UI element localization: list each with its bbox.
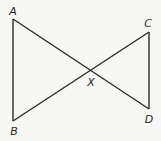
- point-label-b: B: [10, 126, 18, 137]
- segment-bc: [13, 32, 149, 121]
- bowtie-figure: [0, 0, 161, 141]
- point-label-d: D: [145, 114, 153, 125]
- segment-ad: [13, 19, 149, 109]
- point-label-x: X: [87, 77, 95, 88]
- diagram-canvas: A B C D X: [0, 0, 161, 141]
- point-label-c: C: [144, 18, 152, 29]
- point-label-a: A: [9, 6, 17, 17]
